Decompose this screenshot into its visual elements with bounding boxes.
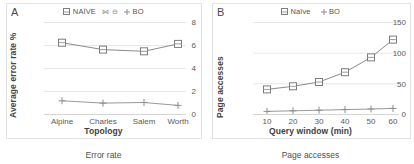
- panel-a: A NAÏVE ⋈ ⊖ BO Average error rate %: [0, 0, 207, 164]
- chart-a-plot-area: 8 6 4 2 0 Alpine Charles Salem Worth: [0, 0, 196, 136]
- chart-a-xtick-1: Charles: [89, 117, 117, 126]
- panel-a-caption: Error rate: [0, 150, 207, 160]
- chart-b-xtick-2: 30: [315, 117, 324, 126]
- chart-b-xtick-4: 50: [367, 117, 376, 126]
- chart-a-xtick-0: Alpine: [51, 117, 73, 126]
- chart-b-ytick-3: 150: [364, 18, 406, 27]
- chart-a-series-bo-line: [62, 101, 178, 106]
- chart-b-xtick-3: 40: [341, 117, 350, 126]
- panel-b-caption: Page accesses: [207, 150, 414, 160]
- chart-b-ytick-2: 100: [364, 49, 406, 58]
- figure-container: A NAÏVE ⋈ ⊖ BO Average error rate %: [0, 0, 414, 164]
- chart-a-ytick-4: 8: [156, 18, 196, 27]
- chart-b-x-axis-title: Query window (min): [207, 126, 414, 136]
- chart-a-x-axis-title: Topology: [0, 126, 207, 136]
- chart-a-ytick-2: 4: [156, 64, 196, 73]
- chart-a-ytick-3: 6: [156, 41, 196, 50]
- chart-b-xtick-5: 60: [389, 117, 398, 126]
- panel-b: B Naïve BO Page accesses: [207, 0, 414, 164]
- chart-b-xtick-1: 20: [289, 117, 298, 126]
- chart-b-ytick-1: 50: [364, 80, 406, 89]
- chart-b-gridlines: [253, 23, 399, 115]
- chart-a-xtick-3: Worth: [167, 117, 188, 126]
- chart-b-plot-area: 150 100 50 0 10 20 30 40 50 60: [207, 0, 406, 136]
- chart-a-ytick-1: 2: [156, 87, 196, 96]
- chart-a-xtick-2: Salem: [133, 117, 156, 126]
- chart-b-xtick-0: 10: [263, 117, 272, 126]
